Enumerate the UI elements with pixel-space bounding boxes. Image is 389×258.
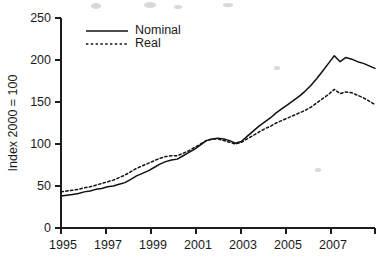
y-tick-label-100: 100 [30, 137, 51, 151]
x-tick-label-2005: 2005 [274, 238, 302, 252]
series-line-nominal [61, 56, 375, 196]
y-axis-title: Index 2000 = 100 [6, 74, 20, 171]
x-tick-label-2003: 2003 [229, 238, 257, 252]
y-tick-label-200: 200 [30, 53, 51, 67]
y-axis: 250 200 150 100 50 0 Index 2000 = 100 [6, 11, 61, 235]
x-tick-label-1995: 1995 [49, 238, 77, 252]
x-tick-label-2007: 2007 [319, 238, 347, 252]
x-axis: 1995 1997 1999 2001 2003 2005 2007 [49, 228, 375, 252]
x-tick-label-1999: 1999 [139, 238, 167, 252]
legend-label-nominal: Nominal [135, 23, 181, 37]
x-tick-label-2001: 2001 [184, 238, 212, 252]
y-tick-label-50: 50 [37, 179, 51, 193]
y-axis-ticks [55, 18, 61, 228]
y-tick-label-0: 0 [44, 221, 51, 235]
y-tick-label-150: 150 [30, 95, 51, 109]
chart-container: 250 200 150 100 50 0 Index 2000 = 100 19… [0, 0, 389, 258]
plot-area [61, 56, 375, 196]
legend-label-real: Real [135, 36, 161, 50]
x-tick-label-1997: 1997 [94, 238, 122, 252]
x-axis-ticks [61, 228, 375, 234]
line-chart: 250 200 150 100 50 0 Index 2000 = 100 19… [0, 0, 389, 258]
y-tick-label-250: 250 [30, 11, 51, 25]
legend: Nominal Real [86, 23, 181, 50]
series-line-real [61, 89, 375, 191]
scan-artifacts [91, 2, 321, 172]
